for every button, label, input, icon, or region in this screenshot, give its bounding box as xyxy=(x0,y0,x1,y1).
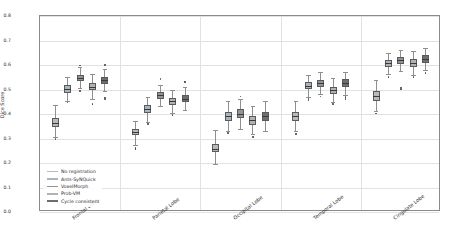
legend-item-label: Cycle consistent xyxy=(61,199,99,204)
legend-color-swatch xyxy=(47,200,58,202)
legend-color-swatch xyxy=(47,178,58,180)
whisker-cap xyxy=(53,105,58,106)
outlier-point xyxy=(332,103,334,105)
outlier-point xyxy=(240,96,242,98)
median-line xyxy=(89,87,96,88)
y-tick-label: 0.2 xyxy=(3,160,11,165)
legend-color-swatch xyxy=(47,171,58,173)
group-separator xyxy=(120,16,121,210)
median-line xyxy=(225,116,232,117)
whisker-cap xyxy=(103,91,108,92)
gridline xyxy=(40,41,439,42)
legend[interactable]: No registrationAnts-SyNQuickVoxelMorphPr… xyxy=(44,166,102,207)
median-line xyxy=(410,63,417,64)
outlier-point xyxy=(79,65,81,67)
whisker-cap xyxy=(90,99,95,100)
median-line xyxy=(317,83,324,84)
whisker-cap xyxy=(133,121,138,122)
median-line xyxy=(77,78,84,79)
outlier-point xyxy=(92,103,94,105)
whisker-cap xyxy=(78,67,83,68)
whisker-cap xyxy=(318,94,323,95)
legend-item-label: Prob-VM xyxy=(61,191,80,196)
whisker-cap xyxy=(374,111,379,112)
median-line xyxy=(212,149,219,150)
whisker-cap xyxy=(399,71,404,72)
outlier-point xyxy=(184,82,186,84)
gridline xyxy=(40,139,439,140)
legend-item[interactable]: Prob-VM xyxy=(47,190,99,197)
median-line xyxy=(52,123,59,124)
whisker-cap xyxy=(226,101,231,102)
whisker-cap xyxy=(213,164,218,165)
y-tick-label: 0.7 xyxy=(3,37,11,42)
legend-item[interactable]: Cycle consistent xyxy=(47,198,99,205)
whisker-cap xyxy=(213,130,218,131)
legend-item-label: Ants-SyNQuick xyxy=(61,177,96,182)
whisker-cap xyxy=(318,72,323,73)
whisker-cap xyxy=(343,72,348,73)
legend-item-label: No registration xyxy=(61,169,96,174)
median-line xyxy=(330,90,337,91)
outlier-point xyxy=(160,79,162,81)
outlier-point xyxy=(67,102,69,104)
y-tick-label: 0.6 xyxy=(3,62,11,67)
legend-item[interactable]: VoxelMorph xyxy=(47,183,99,190)
whisker-cap xyxy=(158,85,163,86)
whisker-cap xyxy=(183,110,188,111)
y-tick-label: 0.8 xyxy=(3,13,11,18)
whisker-cap xyxy=(399,50,404,51)
boxplot-figure: Dice Score 0.00.10.20.30.40.50.60.70.8 F… xyxy=(0,0,454,252)
gridline xyxy=(40,90,439,91)
median-line xyxy=(157,95,164,96)
outlier-point xyxy=(184,81,186,83)
legend-item[interactable]: Ants-SyNQuick xyxy=(47,175,99,182)
median-line xyxy=(385,63,392,64)
whisker-cap xyxy=(306,75,311,76)
outlier-point xyxy=(425,72,427,74)
whisker-cap xyxy=(331,78,336,79)
whisker-cap xyxy=(411,51,416,52)
group-separator xyxy=(281,16,282,210)
legend-item[interactable]: No registration xyxy=(47,168,99,175)
outlier-point xyxy=(135,148,137,150)
median-line xyxy=(422,59,429,60)
whisker-cap xyxy=(65,77,70,78)
outlier-point xyxy=(295,133,297,135)
whisker-cap xyxy=(170,90,175,91)
whisker-cap xyxy=(238,99,243,100)
whisker-cap xyxy=(294,101,299,102)
y-tick-label: 0.4 xyxy=(3,111,11,116)
y-tick-label: 0.1 xyxy=(3,184,11,189)
whisker-cap xyxy=(90,74,95,75)
y-tick-label: 0.3 xyxy=(3,135,11,140)
legend-color-swatch xyxy=(47,186,58,188)
whisker-cap xyxy=(374,80,379,81)
median-line xyxy=(373,96,380,97)
whisker-cap xyxy=(103,69,108,70)
median-line xyxy=(249,120,256,121)
whisker-cap xyxy=(263,101,268,102)
gridline xyxy=(40,65,439,66)
legend-item-label: VoxelMorph xyxy=(61,184,88,189)
y-tick-label: 0.5 xyxy=(3,86,11,91)
outlier-point xyxy=(104,98,106,100)
median-line xyxy=(182,99,189,100)
whisker-cap xyxy=(423,48,428,49)
gridline xyxy=(40,16,439,17)
outlier-point xyxy=(252,136,254,138)
median-line xyxy=(132,132,139,133)
median-line xyxy=(101,80,108,81)
whisker-cap xyxy=(386,53,391,54)
median-line xyxy=(262,116,269,117)
outlier-point xyxy=(79,90,81,92)
whisker-cap xyxy=(294,131,299,132)
gridline xyxy=(40,163,439,164)
outlier-point xyxy=(320,96,322,98)
whisker-cap xyxy=(251,106,256,107)
median-line xyxy=(305,86,312,87)
outlier-point xyxy=(308,100,310,102)
y-tick-label: 0.0 xyxy=(3,209,11,214)
group-separator xyxy=(361,16,362,210)
median-line xyxy=(64,89,71,90)
